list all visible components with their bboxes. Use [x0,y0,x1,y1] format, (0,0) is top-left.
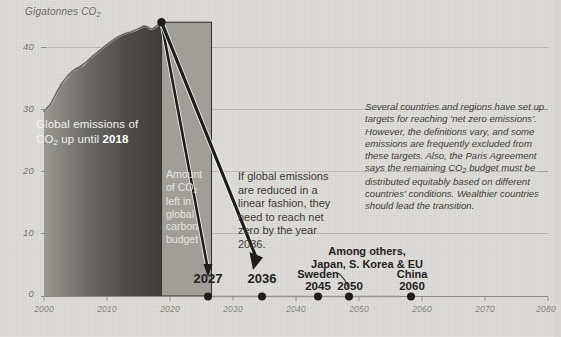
emissions-caption-rest: up until [58,133,102,145]
y-tick-30: 30 [8,103,34,114]
budget-caption-line5: carbon [166,220,198,232]
x-tick-2020: 2020 [148,304,192,314]
net-zero-year-label: 2036 [238,271,286,286]
emissions-caption-line1: Global emissions of [36,118,138,130]
carbon-budget-rectangle [162,22,212,296]
china-year-label: 2060 [386,280,438,292]
target-dot-2027 [204,293,212,301]
paris-note-co2-sub: 2 [463,167,467,174]
peak-marker-dot [157,18,165,26]
y-tick-20: 20 [8,165,34,176]
y-axis-title: Gigatonnes CO2 [25,6,101,17]
x-tick-2060: 2060 [400,304,444,314]
emissions-area [44,22,162,296]
budget-caption-co2-sub: 2 [193,186,197,195]
budget-caption-line4: global [166,208,194,220]
target-dots [204,293,415,301]
y-axis-title-text: Gigatonnes CO [25,6,97,17]
group-year-label: 2050 [326,280,374,292]
group-note-line1: Among others, [328,245,406,257]
emissions-caption-year: 2018 [103,133,129,145]
paris-agreement-note: Several countries and regions have set u… [365,101,545,213]
target-dot-2036 [258,293,266,301]
budget-caption-line2: of CO [166,181,193,193]
y-tick-0: 0 [8,288,34,299]
y-axis-ticks [41,48,46,297]
budget-caption-line3: left in [166,195,191,207]
x-tick-2070: 2070 [463,304,507,314]
emissions-curve-highlight [44,22,162,111]
carbon-budget-caption: Amount of CO2 left in global carbon budg… [166,168,212,245]
x-tick-2000: 2000 [22,304,66,314]
emissions-caption-co2-sub: 2 [53,138,58,147]
x-tick-2080: 2080 [524,304,561,314]
y-tick-10: 10 [8,227,34,238]
x-tick-2040: 2040 [274,304,318,314]
emissions-curve [44,22,162,111]
x-axis-ticks [44,297,548,302]
budget-caption-line1: Amount [166,168,202,180]
emissions-caption-co2: CO [36,133,53,145]
y-axis-title-subscript: 2 [97,10,101,19]
y-tick-40: 40 [8,41,34,52]
x-tick-2050: 2050 [337,304,381,314]
target-dot-2045 [314,293,322,301]
group-note-line2: Japan, S. Korea & EU [311,258,423,270]
x-tick-2010: 2010 [85,304,129,314]
budget-caption-line6: budget [166,233,198,245]
target-dot-2060 [407,293,415,301]
budget-depletion-year-label: 2027 [184,271,232,286]
target-dot-2050 [345,293,353,301]
linear-reduction-note: If global emissions are reduced in a lin… [238,170,344,251]
x-tick-2030: 2030 [211,304,255,314]
emissions-area-caption: Global emissions of CO2 up until 2018 [36,117,158,148]
group-countries-note: Among others, Japan, S. Korea & EU [302,245,432,270]
